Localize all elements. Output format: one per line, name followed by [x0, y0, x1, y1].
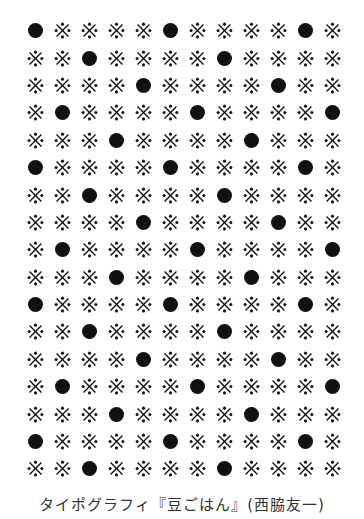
dot-shape: [109, 133, 124, 148]
dot-shape: [217, 188, 232, 203]
kome-glyph: [135, 460, 152, 477]
pattern-row: [22, 72, 346, 99]
reference-mark-icon: [238, 154, 265, 181]
reference-mark-icon: [76, 236, 103, 263]
reference-mark-icon: [130, 99, 157, 126]
reference-mark-icon: [49, 154, 76, 181]
dot-shape: [136, 352, 151, 367]
kome-glyph: [243, 214, 260, 231]
kome-glyph: [243, 323, 260, 340]
kome-glyph: [108, 22, 125, 39]
reference-mark-icon: [22, 346, 49, 373]
reference-mark-icon: [130, 127, 157, 154]
reference-mark-icon: [130, 291, 157, 318]
reference-mark-icon: [22, 455, 49, 482]
dot-shape: [136, 78, 151, 93]
reference-mark-icon: [157, 455, 184, 482]
reference-mark-icon: [103, 428, 130, 455]
kome-glyph: [189, 269, 206, 286]
kome-glyph: [324, 214, 341, 231]
kome-glyph: [297, 378, 314, 395]
kome-glyph: [270, 378, 287, 395]
reference-mark-icon: [211, 291, 238, 318]
kome-glyph: [297, 323, 314, 340]
dot-shape: [109, 270, 124, 285]
pattern-row: [22, 127, 346, 154]
reference-mark-icon: [49, 400, 76, 427]
bean-dot-icon: [292, 154, 319, 181]
reference-mark-icon: [292, 318, 319, 345]
kome-glyph: [81, 77, 98, 94]
kome-glyph: [324, 460, 341, 477]
reference-mark-icon: [319, 44, 346, 71]
kome-glyph: [270, 132, 287, 149]
reference-mark-icon: [319, 154, 346, 181]
figure-caption: タイポグラフィ『豆ごはん』(西脇友一): [0, 493, 364, 514]
kome-glyph: [270, 406, 287, 423]
reference-mark-icon: [103, 72, 130, 99]
kome-glyph: [324, 187, 341, 204]
kome-glyph: [81, 214, 98, 231]
reference-mark-icon: [265, 99, 292, 126]
dot-shape: [298, 434, 313, 449]
kome-glyph: [162, 323, 179, 340]
reference-mark-icon: [130, 400, 157, 427]
kome-glyph: [216, 104, 233, 121]
reference-mark-icon: [22, 236, 49, 263]
reference-mark-icon: [157, 99, 184, 126]
reference-mark-icon: [49, 455, 76, 482]
dot-shape: [271, 78, 286, 93]
reference-mark-icon: [211, 17, 238, 44]
kome-glyph: [54, 132, 71, 149]
bean-dot-icon: [319, 99, 346, 126]
kome-glyph: [81, 378, 98, 395]
reference-mark-icon: [238, 181, 265, 208]
kome-glyph: [297, 50, 314, 67]
reference-mark-icon: [238, 17, 265, 44]
reference-mark-icon: [76, 291, 103, 318]
bean-dot-icon: [238, 127, 265, 154]
pattern-row: [22, 99, 346, 126]
reference-mark-icon: [265, 318, 292, 345]
reference-mark-icon: [130, 236, 157, 263]
reference-mark-icon: [265, 291, 292, 318]
bean-dot-icon: [22, 154, 49, 181]
bean-dot-icon: [238, 264, 265, 291]
reference-mark-icon: [130, 154, 157, 181]
kome-glyph: [54, 50, 71, 67]
kome-glyph: [135, 50, 152, 67]
dot-shape: [190, 242, 205, 257]
reference-mark-icon: [76, 209, 103, 236]
kome-glyph: [108, 351, 125, 368]
kome-glyph: [27, 132, 44, 149]
reference-mark-icon: [265, 455, 292, 482]
kome-glyph: [324, 159, 341, 176]
reference-mark-icon: [265, 154, 292, 181]
pattern-row: [22, 346, 346, 373]
reference-mark-icon: [76, 428, 103, 455]
reference-mark-icon: [22, 373, 49, 400]
bean-dot-icon: [76, 318, 103, 345]
reference-mark-icon: [292, 209, 319, 236]
reference-mark-icon: [76, 373, 103, 400]
dot-shape: [28, 160, 43, 175]
kome-glyph: [135, 241, 152, 258]
kome-glyph: [108, 378, 125, 395]
kome-glyph: [162, 351, 179, 368]
kome-glyph: [216, 241, 233, 258]
reference-mark-icon: [211, 99, 238, 126]
kome-glyph: [27, 77, 44, 94]
pattern-row: [22, 400, 346, 427]
kome-glyph: [162, 460, 179, 477]
kome-glyph: [216, 159, 233, 176]
kome-glyph: [216, 214, 233, 231]
kome-glyph: [162, 269, 179, 286]
kome-glyph: [81, 132, 98, 149]
kome-glyph: [54, 460, 71, 477]
reference-mark-icon: [292, 236, 319, 263]
kome-glyph: [135, 132, 152, 149]
kome-glyph: [243, 241, 260, 258]
reference-mark-icon: [319, 264, 346, 291]
dot-shape: [271, 215, 286, 230]
kome-glyph: [81, 296, 98, 313]
